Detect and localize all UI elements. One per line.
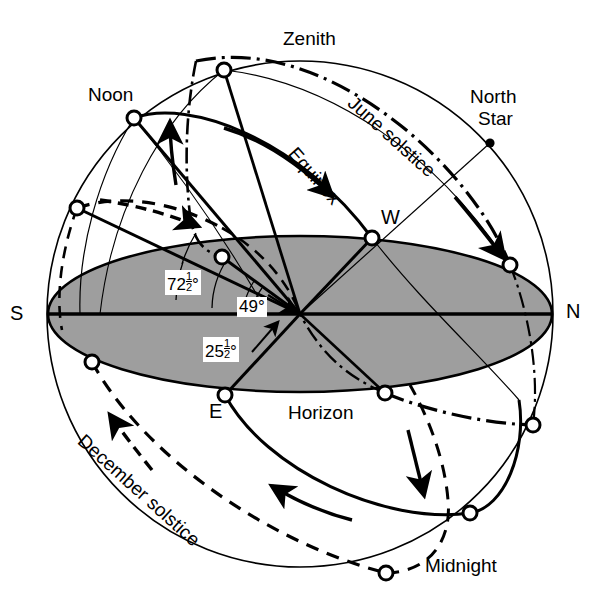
celestial-sphere-figure: Zenith Noon North Star S N W E Horizon M… [0,0,603,608]
june-set-marker [503,258,517,272]
compass-label-north: N [566,300,580,323]
noon-marker-equinox [127,111,141,125]
angle-label-72-5: 7212° [165,270,201,295]
june-horizon-marker [378,386,392,400]
noon-marker-june [215,250,229,264]
december-solstice-path-upper [77,201,222,228]
equinox-path-lower-right [470,400,521,513]
angle-49-unit: ° [258,297,265,316]
north-star-label-line1: North [470,86,516,108]
angle-25-unit: ° [230,342,237,361]
compass-label-west: W [381,206,400,229]
midnight-label: Midnight [425,555,497,577]
june-solstice-path-lower [385,393,533,425]
zenith-label: Zenith [283,28,336,50]
zenith-marker [217,63,231,77]
north-star-label-line2: Star [478,108,513,130]
noon-marker-december [70,201,84,215]
midnight-marker-equinox [463,506,477,520]
angle-72-whole: 72 [167,275,186,294]
angle-25-whole: 25 [205,342,224,361]
june-lower-marker [526,418,540,432]
compass-label-east: E [209,400,222,423]
june-inner-arc [187,61,222,257]
west-marker [365,231,379,245]
midnight-marker-december [379,566,393,580]
december-solstice-path-lower [92,362,386,573]
angle-label-25-5: 2512° [203,337,239,362]
june-solstice-direction-arrow [455,197,504,258]
june-solstice-path-upper [196,57,510,265]
north-star-point [485,138,494,147]
compass-label-south: S [10,302,23,325]
horizon-label: Horizon [288,402,353,424]
angle-72-unit: ° [192,275,199,294]
noon-label: Noon [88,84,133,106]
december-direction-arrow-right [408,430,424,495]
december-solstice-path-lower-right [386,385,448,573]
december-rise-marker [85,355,99,369]
angle-label-49: 49° [237,297,267,317]
june-inner-direction-arrow [170,122,176,185]
angle-49-whole: 49 [239,297,258,316]
